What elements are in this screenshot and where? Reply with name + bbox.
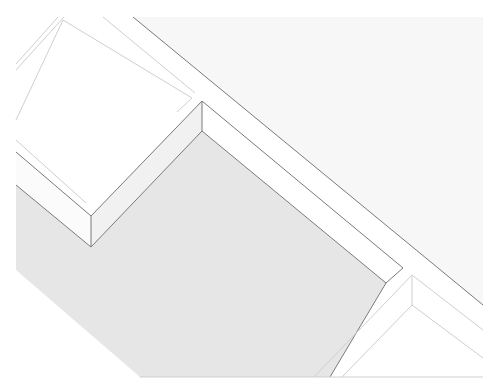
isometric-drawing bbox=[0, 0, 499, 390]
diagram-canvas: Isometric stepped architectural form wit… bbox=[0, 0, 499, 390]
